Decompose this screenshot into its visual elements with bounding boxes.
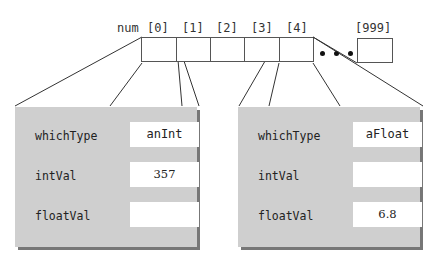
field-label-whichtype: whichType	[258, 129, 320, 143]
array-cell-1	[176, 37, 211, 62]
array-cell-3	[244, 37, 280, 62]
field-label-floatval: floatVal	[35, 209, 90, 223]
index-label-1: [1]	[182, 21, 204, 35]
ellipsis-dot	[334, 51, 339, 56]
field-value-whichtype: aFloat	[353, 122, 422, 147]
field-label-intval: intVal	[35, 169, 77, 183]
field-label-intval: intVal	[258, 169, 300, 183]
field-value-intval: 357	[130, 162, 199, 187]
index-label-0: [0]	[147, 21, 169, 35]
field-value-intval	[353, 162, 422, 187]
array-cell-0	[141, 37, 177, 62]
field-value-floatval: 6.8	[353, 202, 422, 227]
field-value-floatval	[130, 202, 199, 227]
field-label-whichtype: whichType	[35, 129, 97, 143]
ellipsis-dot	[348, 51, 353, 56]
field-value-whichtype: anInt	[130, 122, 199, 147]
index-label-2: [2]	[216, 21, 238, 35]
array-cell-999	[357, 38, 393, 63]
array-cell-4	[279, 37, 314, 62]
field-label-floatval: floatVal	[258, 209, 313, 223]
array-cell-2	[210, 37, 245, 62]
index-label-4: [4]	[286, 21, 308, 35]
struct-box-right: whichType aFloat intVal floatVal 6.8	[238, 107, 420, 247]
array-name-label: num	[117, 21, 139, 35]
struct-box-left: whichType anInt intVal 357 floatVal	[15, 107, 197, 247]
index-label-3: [3]	[251, 21, 273, 35]
ellipsis-dot	[320, 51, 325, 56]
index-label-999: [999]	[355, 21, 391, 35]
